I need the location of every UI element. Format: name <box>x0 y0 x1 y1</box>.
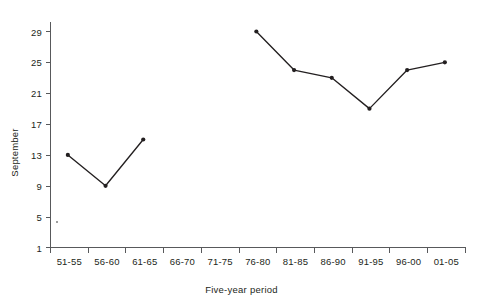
x-tick-label: 96-00 <box>396 256 421 267</box>
x-tick-label: 81-85 <box>283 256 308 267</box>
stray-speck <box>56 221 58 223</box>
y-tick-label: 5 <box>20 211 42 222</box>
data-point-marker <box>405 68 409 72</box>
y-tick-label: 9 <box>20 180 42 191</box>
y-tick-label: 13 <box>20 149 42 160</box>
x-tick-label: 86-90 <box>321 256 346 267</box>
y-tick-label: 17 <box>20 119 42 130</box>
series-line-segment <box>256 32 445 109</box>
data-point-marker <box>443 60 447 64</box>
data-point-marker <box>103 184 107 188</box>
x-axis-title: Five-year period <box>0 284 483 295</box>
x-tick-label: 66-70 <box>170 256 195 267</box>
data-point-marker <box>254 29 258 33</box>
y-axis-title: September <box>6 0 22 304</box>
y-tick-label: 29 <box>20 26 42 37</box>
data-point-marker <box>367 107 371 111</box>
y-axis-title-text: September <box>9 128 20 176</box>
y-tick-label: 25 <box>20 57 42 68</box>
x-tick-marks <box>51 248 466 254</box>
x-tick-label: 91-95 <box>358 256 383 267</box>
line-chart: 1591317212529 51-5556-6061-6566-7071-757… <box>0 0 483 304</box>
y-tick-marks <box>46 32 51 248</box>
data-point-marker <box>292 68 296 72</box>
x-tick-label: 51-55 <box>57 256 82 267</box>
x-tick-label: 71-75 <box>207 256 232 267</box>
series-line-segment <box>68 140 143 186</box>
data-point-marker <box>66 153 70 157</box>
y-tick-label: 1 <box>20 242 42 253</box>
data-series-september <box>66 29 447 187</box>
x-tick-label: 76-80 <box>245 256 270 267</box>
y-tick-label: 21 <box>20 88 42 99</box>
x-tick-label: 56-60 <box>94 256 119 267</box>
data-point-marker <box>330 76 334 80</box>
x-tick-label: 01-05 <box>434 256 459 267</box>
x-tick-label: 61-65 <box>132 256 157 267</box>
data-point-marker <box>141 137 145 141</box>
x-axis-title-text: Five-year period <box>205 284 278 295</box>
